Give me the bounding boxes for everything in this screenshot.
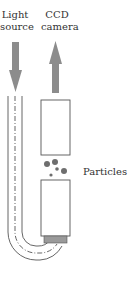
light-source-arrow	[9, 42, 22, 92]
particle	[49, 173, 52, 176]
fiber-connector-cap	[44, 236, 67, 243]
ccd-camera-arrow	[49, 41, 62, 93]
particles-cluster	[44, 159, 67, 177]
particle	[44, 161, 50, 167]
fiber-probe-diagram	[0, 0, 130, 283]
lower-chamber	[41, 180, 70, 236]
particle	[61, 168, 67, 174]
particle	[52, 159, 58, 165]
upper-chamber	[41, 100, 70, 155]
particle	[55, 167, 59, 171]
